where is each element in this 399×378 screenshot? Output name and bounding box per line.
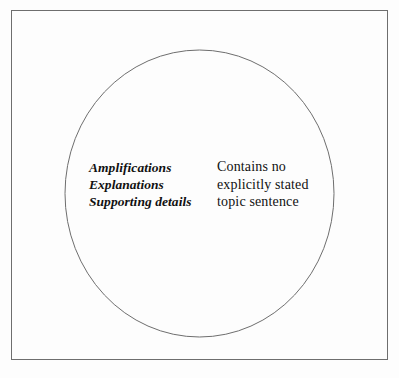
- label-right-line-2: explicitly stated: [217, 176, 309, 194]
- label-right-line-1: Contains no: [217, 158, 309, 176]
- label-left-line-1: Amplifications: [89, 159, 192, 176]
- topic-sentence-note-label: Contains no explicitly stated topic sent…: [217, 158, 309, 211]
- label-left-line-3: Supporting details: [89, 193, 192, 210]
- supporting-details-label: Amplifications Explanations Supporting d…: [89, 159, 192, 211]
- label-right-line-3: topic sentence: [217, 193, 309, 211]
- diagram-canvas: Amplifications Explanations Supporting d…: [0, 0, 399, 378]
- outer-rectangle-border: [11, 10, 388, 360]
- label-left-line-2: Explanations: [89, 176, 192, 193]
